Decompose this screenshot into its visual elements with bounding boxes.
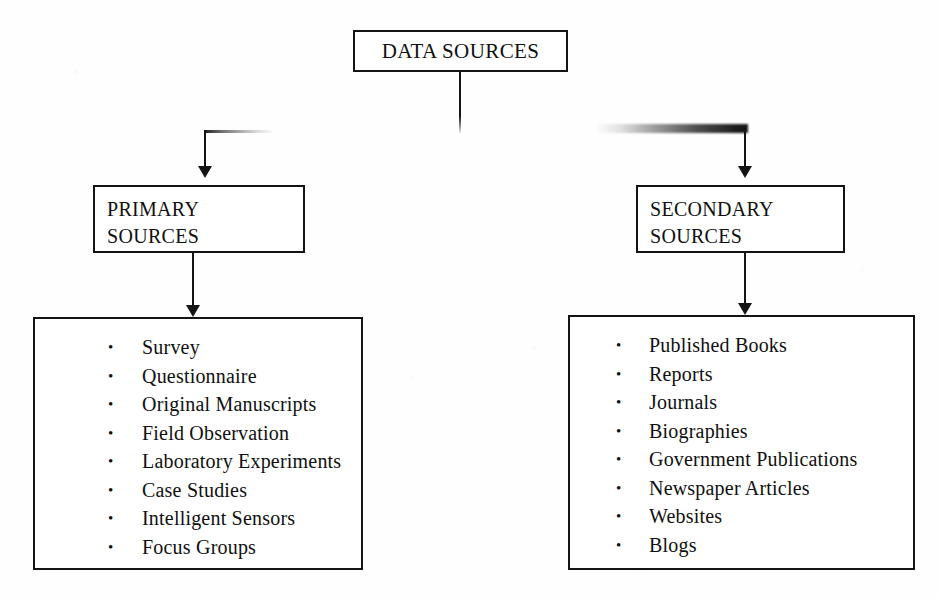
connector-left-horizontal <box>204 130 272 133</box>
list-item: Newspaper Articles <box>570 474 913 503</box>
diagram-canvas: DATA SOURCES PRIMARY SOURCES Survey Ques… <box>0 0 938 599</box>
node-secondary-sources-label-line1: SECONDARY <box>650 196 843 223</box>
connector-secondary-to-list <box>744 253 746 303</box>
connector-right-horizontal <box>596 124 748 133</box>
node-secondary-sources-label-line2: SOURCES <box>650 223 843 250</box>
arrow-head-to-secondary <box>738 166 752 178</box>
list-secondary-sources: Published Books Reports Journals Biograp… <box>568 315 915 570</box>
node-data-sources-label: DATA SOURCES <box>382 39 540 64</box>
list-item: Survey <box>35 333 361 362</box>
list-item: Published Books <box>570 331 913 360</box>
connector-left-vertical <box>204 130 206 166</box>
node-primary-sources-label-line2: SOURCES <box>107 223 303 250</box>
node-secondary-sources: SECONDARY SOURCES <box>636 185 845 253</box>
list-item: Focus Groups <box>35 533 361 562</box>
primary-items-list: Survey Questionnaire Original Manuscript… <box>35 333 361 561</box>
list-item: Websites <box>570 502 913 531</box>
list-item: Original Manuscripts <box>35 390 361 419</box>
list-primary-sources: Survey Questionnaire Original Manuscript… <box>33 317 363 570</box>
list-item: Questionnaire <box>35 362 361 391</box>
list-item: Reports <box>570 360 913 389</box>
list-item: Biographies <box>570 417 913 446</box>
list-item: Field Observation <box>35 419 361 448</box>
arrow-head-to-secondary-list <box>738 303 752 315</box>
node-primary-sources-label-line1: PRIMARY <box>107 196 303 223</box>
list-item: Case Studies <box>35 476 361 505</box>
connector-root-stem <box>459 72 461 133</box>
connector-right-vertical <box>744 128 746 166</box>
list-item: Laboratory Experiments <box>35 447 361 476</box>
secondary-items-list: Published Books Reports Journals Biograp… <box>570 331 913 559</box>
connector-primary-to-list <box>192 253 194 305</box>
list-item: Government Publications <box>570 445 913 474</box>
node-data-sources: DATA SOURCES <box>353 30 568 72</box>
arrow-head-to-primary-list <box>186 305 200 317</box>
list-item: Blogs <box>570 531 913 560</box>
node-primary-sources: PRIMARY SOURCES <box>93 185 305 253</box>
list-item: Intelligent Sensors <box>35 504 361 533</box>
list-item: Journals <box>570 388 913 417</box>
arrow-head-to-primary <box>198 166 212 178</box>
